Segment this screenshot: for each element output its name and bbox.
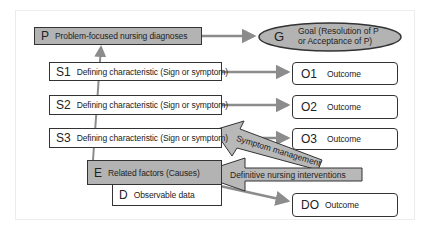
observable-data-box: D Observable data bbox=[112, 185, 222, 206]
outcome-code: DO bbox=[301, 198, 319, 212]
problem-code: P bbox=[41, 29, 49, 43]
goal-ellipse: G Goal (Resolution of P or Acceptance of… bbox=[258, 22, 402, 52]
outcome-box-o3: O3 Outcome bbox=[292, 128, 398, 150]
sign-label: Defining characteristic (Sign or symptom… bbox=[77, 67, 228, 77]
sign-box-s2: S2 Defining characteristic (Sign or symp… bbox=[49, 95, 222, 115]
etiology-box: E Related factors (Causes) bbox=[87, 160, 222, 185]
arrow-e-to-do bbox=[220, 186, 288, 201]
outcome-code: O1 bbox=[301, 67, 317, 81]
sign-box-s3: S3 Defining characteristic (Sign or symp… bbox=[49, 128, 222, 148]
problem-label: Problem-focused nursing diagnoses bbox=[55, 31, 187, 41]
outcome-box-o1: O1 Outcome bbox=[292, 62, 398, 85]
problem-box: P Problem-focused nursing diagnoses bbox=[34, 27, 202, 45]
sign-box-s1: S1 Defining characteristic (Sign or symp… bbox=[49, 62, 222, 81]
outcome-code: O3 bbox=[301, 132, 317, 146]
sign-code: S2 bbox=[56, 98, 71, 112]
etiology-code: E bbox=[94, 166, 102, 180]
data-label: Observable data bbox=[134, 190, 195, 200]
goal-line1: Goal (Resolution of P bbox=[298, 26, 379, 36]
sign-code: S1 bbox=[56, 65, 71, 79]
outcome-label: Outcome bbox=[325, 200, 359, 210]
outcome-code: O2 bbox=[301, 100, 317, 114]
goal-code: G bbox=[274, 29, 284, 44]
outcome-label: Outcome bbox=[327, 69, 361, 79]
sign-label: Defining characteristic (Sign or symptom… bbox=[77, 100, 228, 110]
etiology-label: Related factors (Causes) bbox=[108, 168, 200, 178]
outcome-box-do: DO Outcome bbox=[292, 193, 398, 217]
sign-code: S3 bbox=[56, 131, 71, 145]
goal-line2: or Acceptance of P) bbox=[298, 36, 379, 46]
sign-label: Defining characteristic (Sign or symptom… bbox=[77, 133, 228, 143]
outcome-label: Outcome bbox=[327, 134, 361, 144]
outcome-box-o2: O2 Outcome bbox=[292, 95, 398, 119]
data-code: D bbox=[119, 188, 128, 202]
definitive-interventions-label: Definitive nursing interventions bbox=[230, 170, 346, 180]
outcome-label: Outcome bbox=[327, 102, 361, 112]
